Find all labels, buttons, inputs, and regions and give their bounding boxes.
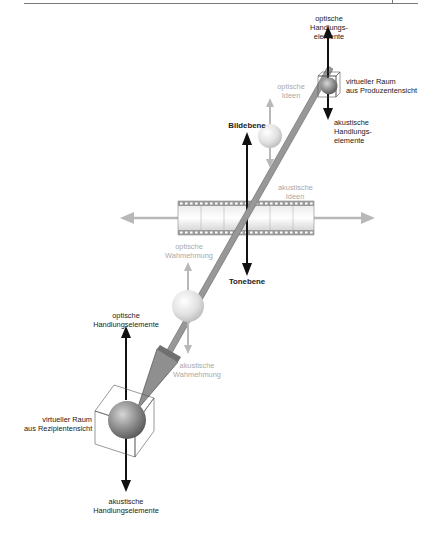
label-producer-acoustic-elements: akustische Handlungs- elemente	[334, 118, 372, 145]
recipient-space	[95, 326, 154, 492]
label-recipient-acoustic-elements: akustische Handlungselemente	[92, 497, 160, 515]
label-producer-virtual-space: virtueller Raum aus Produzentensicht	[346, 77, 417, 95]
label-acoustic-perception: akustische Wahmehmung	[168, 361, 226, 379]
label-producer-optical-elements: optische Handlungs- elemente	[308, 14, 350, 41]
producer-sphere	[321, 78, 338, 95]
perception-sphere	[172, 290, 204, 322]
label-recipient-virtual-space: virtueller Raum aus Rezipientensicht	[24, 415, 92, 433]
diagram-canvas: optische Handlungs- elemente virtueller …	[0, 0, 444, 533]
main-communication-arrow	[137, 66, 333, 410]
label-optical-ideas: optische Ideen	[276, 82, 306, 100]
label-optical-perception: optische Wahmehmung	[160, 242, 218, 260]
label-sound-plane: Tonebene	[225, 277, 269, 286]
label-recipient-optical-elements: optische Handlungselemente	[92, 311, 160, 329]
label-image-plane: Bildebene	[223, 121, 271, 130]
label-acoustic-ideas: akustische Ideen	[278, 183, 312, 201]
recipient-sphere	[108, 401, 146, 439]
